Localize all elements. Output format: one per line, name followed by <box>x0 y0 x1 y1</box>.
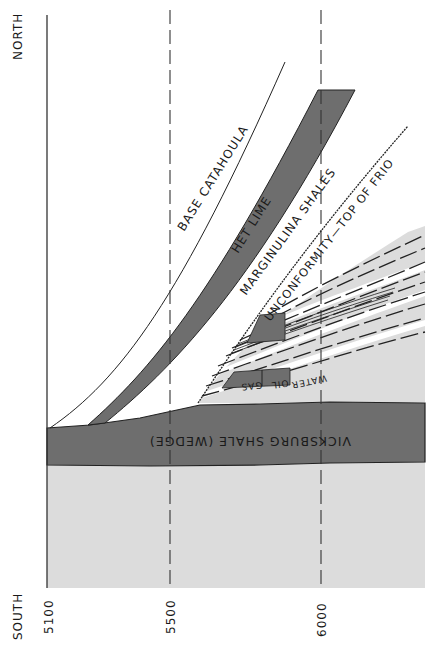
tick-6000: 6000 <box>315 602 329 637</box>
south-label: SOUTH <box>11 593 25 640</box>
vicksburg-label: VICKSBURG SHALE (WEDGE) <box>149 434 351 449</box>
tick-5100: 5100 <box>42 599 56 634</box>
tick-5500: 5500 <box>164 599 178 634</box>
cross-section-diagram: NORTH SOUTH 5100 5500 6000 BASE CATAHOUL… <box>0 0 440 649</box>
lower-light-block <box>47 462 425 588</box>
base-catahoula-label: BASE CATAHOULA <box>175 123 252 234</box>
north-label: NORTH <box>11 13 25 60</box>
